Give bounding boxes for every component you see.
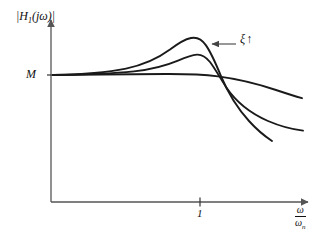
xi-symbol: ξ [240, 32, 245, 46]
x-axis-label-numerator: ω [295, 205, 306, 217]
curve-high-damping [53, 74, 302, 98]
plot-canvas [0, 0, 326, 236]
x-axis-label: ω ωn [295, 205, 306, 231]
xi-annotation-label: ξ↑ [240, 33, 252, 45]
curve-low-damping [53, 38, 272, 141]
curve-medium-damping [53, 55, 303, 131]
y-axis-label-main: |H [16, 9, 28, 23]
x-tick-label-one: 1 [197, 208, 203, 219]
up-arrow-icon: ↑ [246, 32, 252, 46]
x-axis-label-denominator: ωn [295, 217, 306, 231]
x-axis-label-denominator-subscript: n [302, 223, 306, 231]
y-axis-label: |H1(jω)| [16, 10, 55, 25]
m-level-label: M [26, 68, 36, 80]
frequency-response-figure: |H1(jω)| M 1 ω ωn ξ↑ [0, 0, 326, 236]
y-axis-label-tail: (jω)| [32, 9, 55, 23]
